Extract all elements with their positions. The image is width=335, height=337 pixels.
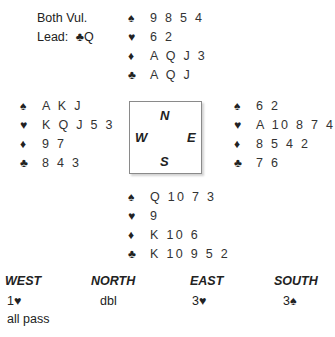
north-diamonds: A Q J 3 bbox=[150, 49, 207, 63]
auction-header-east: EAST bbox=[190, 274, 223, 288]
diamond-icon: ♦ bbox=[234, 135, 256, 154]
bid-east-1: 3♥ bbox=[192, 294, 206, 308]
bid-south-1: 3♠ bbox=[283, 294, 297, 308]
spade-icon: ♠ bbox=[234, 97, 256, 116]
compass-north: N bbox=[160, 108, 169, 123]
west-hand: ♠A K J ♥K Q J 5 3 ♦9 7 ♣8 4 3 bbox=[20, 97, 115, 173]
south-clubs-row: ♣K 10 9 5 2 bbox=[128, 245, 230, 264]
spade-icon: ♠ bbox=[128, 188, 150, 207]
south-diamonds-row: ♦K 10 6 bbox=[128, 226, 230, 245]
heart-icon: ♥ bbox=[20, 116, 42, 135]
north-hearts: 6 2 bbox=[150, 30, 174, 44]
lead-card: Q bbox=[84, 30, 94, 44]
auction-header-north: NORTH bbox=[91, 274, 135, 288]
club-icon: ♣ bbox=[234, 154, 256, 173]
south-hand: ♠Q 10 7 3 ♥9 ♦K 10 6 ♣K 10 9 5 2 bbox=[128, 188, 230, 264]
north-spades: 9 8 5 4 bbox=[150, 11, 204, 25]
spade-icon: ♠ bbox=[20, 97, 42, 116]
south-hearts: 9 bbox=[150, 209, 159, 223]
club-icon: ♣ bbox=[76, 30, 84, 44]
auction-header-south: SOUTH bbox=[274, 274, 318, 288]
south-hearts-row: ♥9 bbox=[128, 207, 230, 226]
diamond-icon: ♦ bbox=[20, 135, 42, 154]
compass-box: N W E S bbox=[129, 101, 202, 174]
east-hearts: A 10 8 7 4 bbox=[256, 118, 335, 132]
bid-north-1: dbl bbox=[100, 294, 117, 308]
heart-icon: ♥ bbox=[128, 28, 150, 47]
diamond-icon: ♦ bbox=[128, 226, 150, 245]
diamond-icon: ♦ bbox=[128, 47, 150, 66]
club-icon: ♣ bbox=[20, 154, 42, 173]
east-spades-row: ♠6 2 bbox=[234, 97, 335, 116]
south-spades: Q 10 7 3 bbox=[150, 190, 216, 204]
auction-header-west: WEST bbox=[5, 274, 41, 288]
north-spades-row: ♠9 8 5 4 bbox=[128, 9, 207, 28]
north-diamonds-row: ♦A Q J 3 bbox=[128, 47, 207, 66]
vulnerability-label: Both Vul. bbox=[37, 11, 87, 25]
north-clubs-row: ♣A Q J bbox=[128, 66, 207, 85]
heart-icon: ♥ bbox=[128, 207, 150, 226]
west-diamonds: 9 7 bbox=[42, 137, 66, 151]
east-hand: ♠6 2 ♥A 10 8 7 4 ♦8 5 4 2 ♣7 6 bbox=[234, 97, 335, 173]
north-hearts-row: ♥6 2 bbox=[128, 28, 207, 47]
compass-west: W bbox=[135, 130, 147, 145]
south-spades-row: ♠Q 10 7 3 bbox=[128, 188, 230, 207]
west-clubs-row: ♣8 4 3 bbox=[20, 154, 115, 173]
compass-east: E bbox=[187, 130, 196, 145]
east-clubs-row: ♣7 6 bbox=[234, 154, 335, 173]
spade-icon: ♠ bbox=[128, 9, 150, 28]
east-spades: 6 2 bbox=[256, 99, 280, 113]
club-icon: ♣ bbox=[128, 245, 150, 264]
bid-west-2: all pass bbox=[7, 312, 49, 326]
north-hand: ♠9 8 5 4 ♥6 2 ♦A Q J 3 ♣A Q J bbox=[128, 9, 207, 85]
west-hearts: K Q J 5 3 bbox=[42, 118, 115, 132]
east-clubs: 7 6 bbox=[256, 156, 280, 170]
west-diamonds-row: ♦9 7 bbox=[20, 135, 115, 154]
club-icon: ♣ bbox=[128, 66, 150, 85]
east-diamonds: 8 5 4 2 bbox=[256, 137, 310, 151]
compass-south: S bbox=[160, 154, 169, 169]
east-hearts-row: ♥A 10 8 7 4 bbox=[234, 116, 335, 135]
south-clubs: K 10 9 5 2 bbox=[150, 247, 230, 261]
west-spades-row: ♠A K J bbox=[20, 97, 115, 116]
opening-lead: Lead: ♣Q bbox=[37, 30, 94, 44]
west-clubs: 8 4 3 bbox=[42, 156, 81, 170]
lead-label: Lead: bbox=[37, 30, 68, 44]
north-clubs: A Q J bbox=[150, 68, 192, 82]
south-diamonds: K 10 6 bbox=[150, 228, 200, 242]
west-hearts-row: ♥K Q J 5 3 bbox=[20, 116, 115, 135]
west-spades: A K J bbox=[42, 99, 83, 113]
east-diamonds-row: ♦8 5 4 2 bbox=[234, 135, 335, 154]
heart-icon: ♥ bbox=[234, 116, 256, 135]
bid-west-1: 1♥ bbox=[7, 294, 21, 308]
